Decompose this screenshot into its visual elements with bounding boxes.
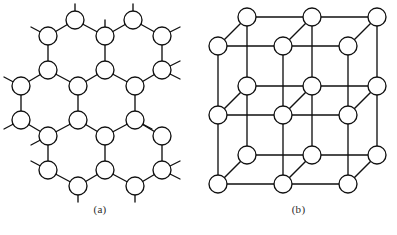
- atom: [238, 8, 256, 26]
- caption-panel-a: (a): [0, 203, 200, 215]
- atom: [96, 27, 114, 45]
- hexagonal-atom-group: [12, 11, 171, 195]
- atom: [303, 77, 321, 95]
- panel-hexagonal-lattice: [0, 0, 200, 235]
- atom: [69, 111, 87, 129]
- atom: [339, 37, 357, 55]
- atom: [96, 127, 114, 145]
- atom: [153, 161, 171, 179]
- atom: [339, 106, 357, 124]
- atom: [274, 175, 292, 193]
- atom: [39, 161, 57, 179]
- atom: [126, 177, 144, 195]
- atom: [153, 27, 171, 45]
- atom: [274, 37, 292, 55]
- atom: [303, 146, 321, 164]
- cubic-lattice-diagram: [200, 0, 397, 205]
- atom: [368, 8, 386, 26]
- atom: [209, 106, 227, 124]
- atom: [124, 11, 142, 29]
- atom: [238, 146, 256, 164]
- atom: [39, 61, 57, 79]
- atom: [209, 175, 227, 193]
- atom: [339, 175, 357, 193]
- atom: [126, 111, 144, 129]
- atom: [66, 11, 84, 29]
- atom: [96, 161, 114, 179]
- atom: [153, 61, 171, 79]
- atom: [368, 146, 386, 164]
- atom: [153, 127, 171, 145]
- atom: [69, 177, 87, 195]
- atom: [39, 127, 57, 145]
- atom: [368, 77, 386, 95]
- atom: [238, 77, 256, 95]
- atom: [274, 106, 292, 124]
- caption-panel-b: (b): [200, 203, 397, 215]
- atom: [12, 77, 30, 95]
- atom: [126, 77, 144, 95]
- atom: [69, 77, 87, 95]
- atom: [209, 37, 227, 55]
- panel-cubic-lattice: [200, 0, 397, 235]
- atom: [39, 27, 57, 45]
- figure-root: (a) (b): [0, 0, 397, 235]
- atom: [12, 111, 30, 129]
- hexagonal-bond-group: [21, 20, 162, 186]
- atom: [96, 61, 114, 79]
- hexagonal-lattice-diagram: [0, 0, 200, 205]
- atom: [303, 8, 321, 26]
